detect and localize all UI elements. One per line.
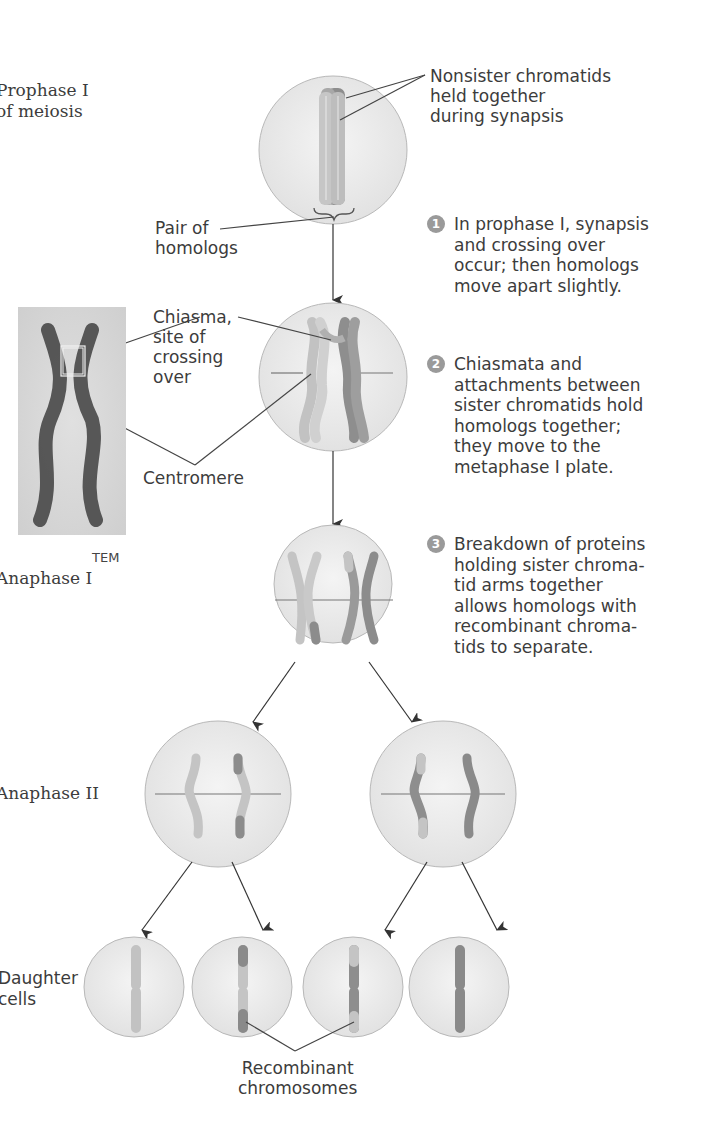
metaphase-cell: [259, 303, 407, 451]
step-text-3: Breakdown of proteins holding sister chr…: [454, 534, 724, 657]
tem-label: TEM: [92, 550, 119, 565]
step-badge-3: 3: [427, 535, 445, 553]
pair-of-homologs-label: Pair of homologs: [155, 218, 238, 258]
step-text-2: Chiasmata and attachments between sister…: [454, 354, 724, 477]
prophase-cell: [259, 76, 407, 224]
anaphase2-cell-left: [145, 721, 291, 867]
daughter-cell-2: [192, 937, 292, 1037]
anaphase1-cell: [274, 525, 393, 643]
daughter-cell-4: [409, 937, 509, 1037]
chiasma-label: Chiasma, site of crossing over: [153, 307, 232, 387]
recombinant-chromosomes-label: Recombinant chromosomes: [238, 1058, 357, 1098]
stage-label-prophase: Prophase I of meiosis: [0, 80, 89, 122]
stage-label-daughter: Daughter cells: [0, 968, 78, 1010]
nonsister-chromatids-label: Nonsister chromatids held together durin…: [430, 66, 611, 126]
step-text-1: In prophase I, synapsis and crossing ove…: [454, 214, 724, 296]
centromere-label: Centromere: [143, 468, 244, 488]
step-badge-2: 2: [427, 355, 445, 373]
stage-label-anaphase2: Anaphase II: [0, 783, 99, 804]
tem-micrograph: [18, 307, 126, 535]
anaphase2-cell-right: [370, 721, 516, 867]
daughter-cell-1: [84, 937, 184, 1037]
step-badge-1: 1: [427, 215, 445, 233]
stage-label-anaphase1: Anaphase I: [0, 568, 92, 589]
